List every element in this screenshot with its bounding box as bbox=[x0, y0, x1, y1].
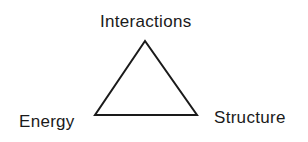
vertex-label-interactions: Interactions bbox=[100, 13, 191, 30]
triangle-diagram: Interactions Energy Structure bbox=[0, 0, 308, 142]
vertex-label-energy: Energy bbox=[19, 113, 75, 130]
vertex-label-structure: Structure bbox=[214, 109, 286, 126]
triangle-outline bbox=[95, 41, 197, 115]
